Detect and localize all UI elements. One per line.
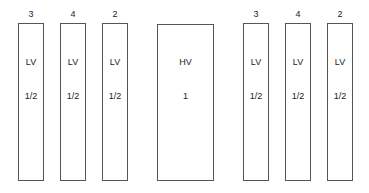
lv-box: LV 1/2 — [285, 23, 311, 181]
box-ratio-label: 1/2 — [244, 91, 268, 101]
box-top-label: 3 — [236, 9, 276, 19]
box-type-label: LV — [328, 57, 352, 67]
box-type-label: LV — [61, 57, 85, 67]
lv-box: LV 1/2 — [102, 23, 128, 181]
box-ratio-label: 1/2 — [286, 91, 310, 101]
lv-box: LV 1/2 — [243, 23, 269, 181]
lv-box: LV 1/2 — [18, 23, 44, 181]
box-ratio-label: 1/2 — [328, 91, 352, 101]
lv-box: LV 1/2 — [327, 23, 353, 181]
box-ratio-label: 1/2 — [61, 91, 85, 101]
box-type-label: LV — [19, 57, 43, 67]
box-top-label: 4 — [278, 9, 318, 19]
lv-box: LV 1/2 — [60, 23, 86, 181]
box-top-label: 4 — [53, 9, 93, 19]
box-top-label: 2 — [95, 9, 135, 19]
box-type-label: LV — [103, 57, 127, 67]
box-type-label: LV — [286, 57, 310, 67]
box-top-label: 3 — [11, 9, 51, 19]
hv-box: HV 1 — [157, 24, 214, 181]
box-type-label: HV — [158, 57, 213, 67]
box-top-label: 2 — [320, 9, 360, 19]
box-type-label: LV — [244, 57, 268, 67]
box-ratio-label: 1 — [158, 91, 213, 101]
box-ratio-label: 1/2 — [19, 91, 43, 101]
box-ratio-label: 1/2 — [103, 91, 127, 101]
